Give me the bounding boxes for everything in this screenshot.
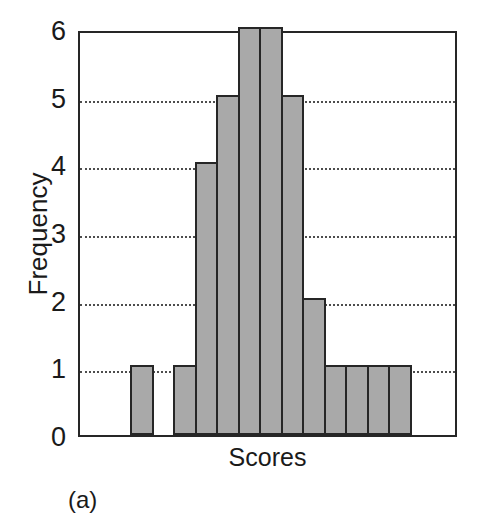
x-axis-title: Scores [78,443,457,472]
bar-bin9 [302,298,326,435]
histogram-figure: 0123456 Frequency Scores (a) [0,0,478,532]
bar-bin11 [345,365,369,435]
y-axis-tick-label-5: 5 [51,85,66,112]
y-axis-tick-label-0: 0 [51,424,66,451]
bar-bin6 [238,27,262,435]
bar-bin12 [367,365,391,435]
y-axis-tick-label-1: 1 [51,356,66,383]
bar-bin4 [195,162,219,435]
bar-bin13 [388,365,412,435]
bar-series [80,33,455,435]
plot-area [78,31,457,437]
bar-bin3 [173,365,197,435]
bar-bin5 [216,95,240,435]
bar-bin10 [324,365,348,435]
bar-bin8 [281,95,305,435]
y-axis-title: Frequency [23,124,54,344]
bar-bin1 [130,365,154,435]
y-axis-tick-label-6: 6 [51,18,66,45]
figure-caption: (a) [68,486,97,514]
bar-bin7 [259,27,283,435]
